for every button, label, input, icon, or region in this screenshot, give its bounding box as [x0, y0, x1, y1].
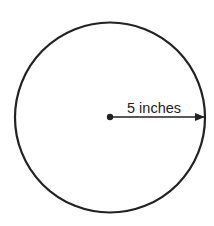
radius-label: 5 inches [127, 100, 181, 116]
circle-diagram: 5 inches [0, 0, 214, 226]
